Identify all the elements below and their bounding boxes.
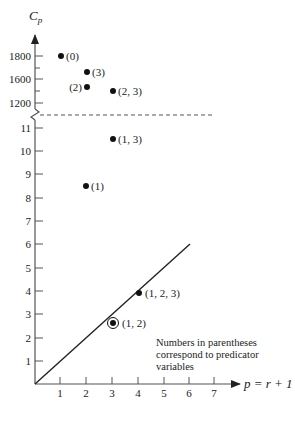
svg-text:1600: 1600 — [9, 73, 32, 85]
svg-text:1: 1 — [57, 387, 63, 399]
svg-text:(1, 2, 3): (1, 2, 3) — [145, 287, 180, 300]
svg-text:7: 7 — [26, 215, 32, 227]
svg-text:(1, 3): (1, 3) — [118, 133, 142, 146]
point-2: (2) — [69, 81, 90, 94]
point-1: (1) — [83, 180, 104, 193]
svg-text:correspond to predicator: correspond to predicator — [156, 349, 259, 360]
svg-text:2: 2 — [83, 387, 89, 399]
point-2-3: (2, 3) — [110, 85, 142, 98]
svg-text:4: 4 — [26, 285, 32, 297]
y-axis-title: Cp — [29, 8, 43, 25]
svg-text:3: 3 — [26, 308, 32, 320]
svg-text:6: 6 — [186, 387, 192, 399]
svg-text:11: 11 — [20, 122, 31, 134]
svg-text:(1, 2): (1, 2) — [122, 317, 146, 330]
svg-text:1: 1 — [26, 355, 32, 367]
x-axis-title: p = r + 1 — [243, 376, 293, 391]
svg-text:(2, 3): (2, 3) — [118, 85, 142, 98]
svg-text:7: 7 — [211, 387, 217, 399]
svg-text:1800: 1800 — [9, 50, 32, 62]
svg-text:(0): (0) — [66, 50, 79, 63]
point-3: (3) — [84, 66, 105, 79]
point-1-2-3: (1, 2, 3) — [136, 287, 180, 300]
svg-text:4: 4 — [135, 387, 141, 399]
svg-text:5: 5 — [161, 387, 167, 399]
svg-text:8: 8 — [26, 192, 32, 204]
y-axis — [31, 35, 39, 384]
point-1-2-circled: (1, 2) — [108, 317, 147, 330]
annotation-note: Numbers in parentheses correspond to pre… — [156, 337, 259, 372]
y-ticks-upper: 1800 1600 1200 — [9, 50, 43, 109]
y-ticks-lower: 1 2 3 4 5 6 7 8 9 10 11 — [20, 122, 43, 367]
svg-text:(2): (2) — [69, 81, 82, 94]
svg-text:6: 6 — [26, 238, 32, 250]
svg-text:3: 3 — [109, 387, 115, 399]
x-ticks: 1 2 3 4 5 6 7 — [57, 377, 217, 399]
svg-text:(3): (3) — [92, 66, 105, 79]
svg-text:variables: variables — [156, 361, 194, 372]
axis-break-icon — [31, 109, 39, 120]
svg-text:1200: 1200 — [9, 97, 32, 109]
svg-text:9: 9 — [26, 168, 32, 180]
svg-text:5: 5 — [26, 262, 32, 274]
point-0: (0) — [58, 50, 79, 63]
cp-plot: Cp p = r + 1 1 2 3 4 5 6 7 8 9 10 11 180… — [0, 0, 295, 422]
svg-text:2: 2 — [26, 332, 32, 344]
svg-text:10: 10 — [20, 145, 32, 157]
data-points: (0) (3) (2) (2, 3) (1, 3) (1) (1, 2, 3) — [58, 50, 180, 330]
point-1-3: (1, 3) — [110, 133, 142, 146]
svg-text:(1): (1) — [91, 180, 104, 193]
svg-text:Numbers in parentheses: Numbers in parentheses — [156, 337, 257, 348]
